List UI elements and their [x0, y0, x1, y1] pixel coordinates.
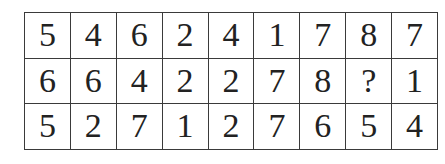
cell: 4: [116, 58, 162, 104]
cell: 2: [162, 13, 208, 59]
number-puzzle-grid: 5 4 6 2 4 1 7 8 7 6 6 4 2 2 7 8 ? 1 5 2 …: [24, 12, 438, 150]
cell: 5: [25, 104, 71, 150]
cell: 7: [300, 13, 346, 59]
cell: 4: [70, 13, 116, 59]
cell: 4: [208, 13, 254, 59]
cell: 2: [208, 104, 254, 150]
cell: 6: [300, 104, 346, 150]
cell: 7: [254, 58, 300, 104]
grid-row-3: 5 2 7 1 2 7 6 5 4: [25, 104, 438, 150]
cell: 6: [116, 13, 162, 59]
cell: 1: [392, 58, 438, 104]
cell: 5: [25, 13, 71, 59]
cell: 4: [392, 104, 438, 150]
cell: 1: [254, 13, 300, 59]
cell: 7: [392, 13, 438, 59]
cell: 8: [300, 58, 346, 104]
cell: 8: [346, 13, 392, 59]
grid-row-2: 6 6 4 2 2 7 8 ? 1: [25, 58, 438, 104]
cell: 2: [70, 104, 116, 150]
cell: 7: [116, 104, 162, 150]
cell: 6: [70, 58, 116, 104]
cell: 2: [162, 58, 208, 104]
cell: 6: [25, 58, 71, 104]
grid-row-1: 5 4 6 2 4 1 7 8 7: [25, 13, 438, 59]
cell: 7: [254, 104, 300, 150]
cell: 2: [208, 58, 254, 104]
missing-value-cell: ?: [346, 58, 392, 104]
cell: 5: [346, 104, 392, 150]
cell: 1: [162, 104, 208, 150]
